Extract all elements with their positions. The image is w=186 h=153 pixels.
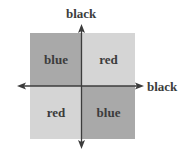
horizontal-axis-label: black: [147, 80, 177, 93]
axes: [0, 0, 186, 153]
vertical-axis-label: black: [66, 7, 96, 20]
